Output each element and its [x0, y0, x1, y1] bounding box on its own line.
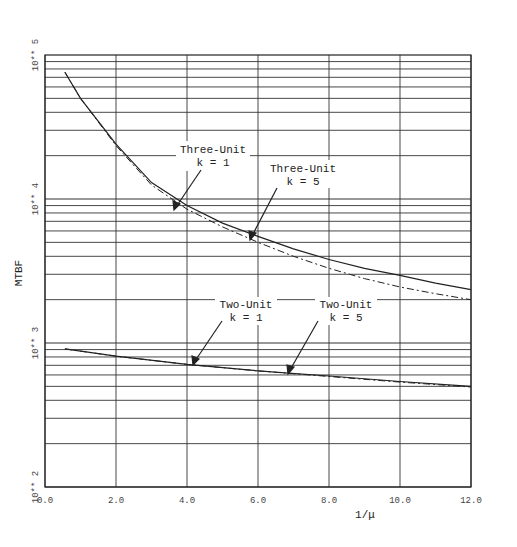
y-tick-label: 10** 5 [31, 39, 41, 71]
y-axis-label: MTBF [13, 260, 25, 286]
x-tick-label: 8.0 [321, 496, 337, 506]
x-axis-label: 1/μ [355, 509, 375, 521]
x-tick-label: 6.0 [250, 496, 266, 506]
y-tick-label: 10** 4 [31, 183, 41, 215]
mtbf-chart: 0.02.04.06.08.010.012.0 10** 210** 310**… [0, 0, 517, 547]
annotation-three-unit-k5: Three-Unit [270, 163, 336, 175]
x-tick-label: 10.0 [389, 496, 411, 506]
annotation-three-unit-k1: Three-Unit [180, 144, 246, 156]
annotation-two-unit-k5-k: k = 5 [329, 312, 362, 324]
series-two-unit-k-5 [65, 349, 471, 387]
annotation-three-unit-k1-k: k = 1 [196, 157, 229, 169]
x-tick-labels: 0.02.04.06.08.010.012.0 [37, 496, 482, 506]
annotation-two-unit-k1: Two-Unit [220, 299, 273, 311]
series-two-unit-k-1 [65, 349, 471, 386]
annotation-three-unit-k5-k: k = 5 [286, 176, 319, 188]
y-tick-labels: 10** 210** 310** 410** 5 [31, 39, 41, 503]
grid [45, 55, 471, 487]
annotation-two-unit-k5: Two-Unit [320, 299, 373, 311]
annotation-two-unit-k1-k: k = 1 [229, 312, 262, 324]
x-tick-label: 4.0 [179, 496, 195, 506]
x-tick-label: 12.0 [460, 496, 482, 506]
y-tick-label: 10** 3 [31, 327, 41, 359]
y-tick-label: 10** 2 [31, 471, 41, 503]
series [65, 72, 471, 387]
x-tick-label: 2.0 [108, 496, 124, 506]
